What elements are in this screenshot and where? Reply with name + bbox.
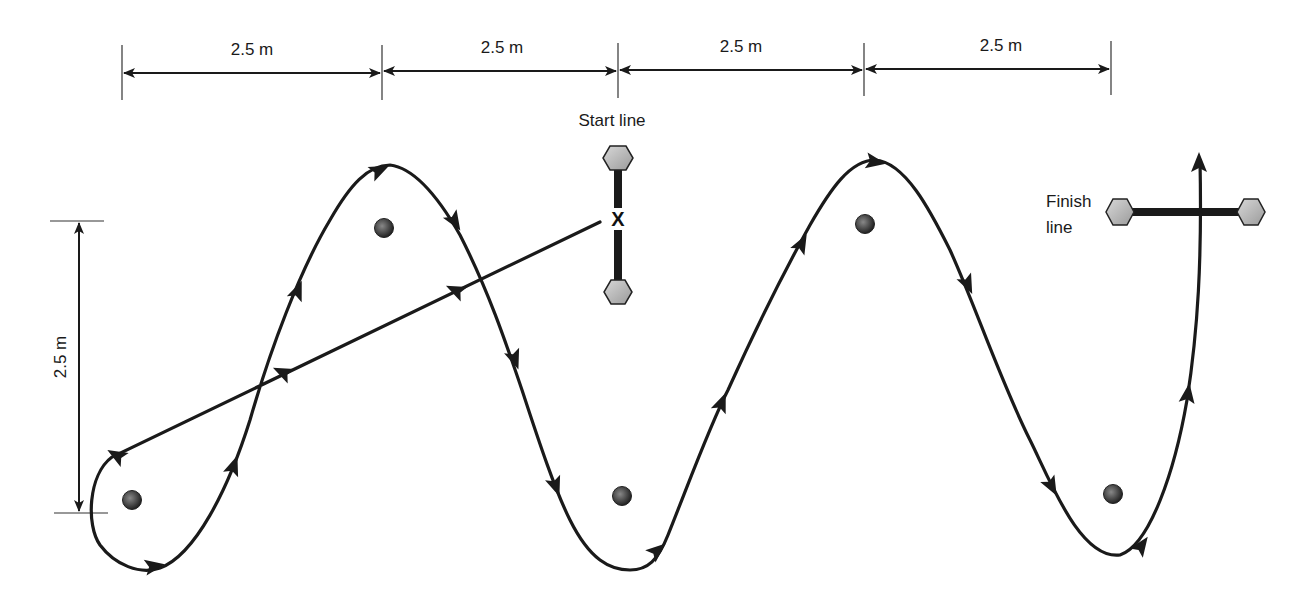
course-path <box>91 152 1207 576</box>
direction-arrow-icon <box>1040 474 1064 499</box>
start-post-top-icon <box>603 146 633 170</box>
start-mark-x: X <box>611 208 625 230</box>
direction-arrow-icon <box>223 453 245 477</box>
finish-post-right-icon <box>1237 199 1265 225</box>
cone-1 <box>123 491 142 510</box>
cone-3 <box>613 487 632 506</box>
vertical-dimension: 2.5 m <box>50 221 108 513</box>
finish-line-label-2: line <box>1046 218 1072 237</box>
dimension-label-3: 2.5 m <box>720 37 763 56</box>
direction-arrow-icon <box>443 279 468 302</box>
slalom-diagram: 2.5 m 2.5 m 2.5 m 2.5 m 2.5 m <box>0 0 1313 606</box>
cone-5 <box>1104 485 1123 504</box>
horizontal-dimensions: 2.5 m 2.5 m 2.5 m 2.5 m <box>122 36 1111 100</box>
finish-line-label-1: Finish <box>1046 192 1091 211</box>
direction-arrow-icon <box>711 390 733 415</box>
dimension-label-1: 2.5 m <box>231 40 274 59</box>
dimension-label-4: 2.5 m <box>980 36 1023 55</box>
cone-2 <box>375 219 394 238</box>
start-post-bottom-icon <box>604 280 632 304</box>
cone-4 <box>856 215 875 234</box>
dimension-label-2: 2.5 m <box>481 38 524 57</box>
finish-line: Finish line <box>1046 192 1265 237</box>
finish-post-left-icon <box>1106 199 1134 225</box>
vertical-dimension-label: 2.5 m <box>51 336 70 379</box>
direction-arrow-icon <box>545 475 567 499</box>
start-line: Start line X <box>578 111 645 304</box>
start-line-label: Start line <box>578 111 645 130</box>
cones <box>123 215 1123 510</box>
